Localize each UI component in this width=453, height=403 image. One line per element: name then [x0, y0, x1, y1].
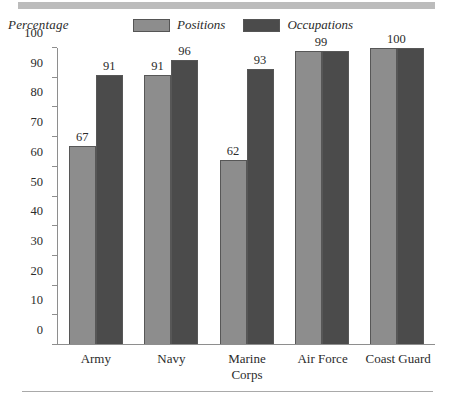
bar-group: 100 [360, 48, 435, 344]
y-axis-tick-label: 30 [31, 233, 44, 248]
bar-group: 99 [284, 48, 359, 344]
bar-value-label: 91 [151, 59, 164, 74]
y-axis-tick-label: 100 [24, 26, 43, 41]
y-axis-tick-label: 50 [31, 174, 44, 189]
y-axis-tick: 70 [52, 136, 57, 137]
x-axis-line [57, 344, 435, 345]
x-axis-category-label: Marine Corps [209, 351, 285, 383]
chart-legend: Positions Occupations [133, 17, 353, 33]
bar-positions[interactable]: 67 [69, 146, 96, 344]
bar-group: 6791 [58, 48, 133, 344]
bar-occupations[interactable] [322, 51, 349, 344]
bar-group: 9196 [133, 48, 208, 344]
legend-entry-positions: Positions [133, 17, 225, 33]
legend-swatch-occupations [243, 19, 280, 32]
top-decorative-rule [18, 2, 435, 9]
y-axis-tick: 20 [52, 285, 57, 286]
x-axis-category-label: Coast Guard [360, 351, 436, 383]
bar-groups: 67919196629399100 [58, 48, 435, 344]
legend-label-positions: Positions [177, 17, 225, 33]
legend-swatch-positions [133, 19, 170, 32]
bar-value-label: 91 [103, 59, 116, 74]
x-axis-category-label: Army [58, 351, 134, 383]
bar-value-label: 93 [254, 53, 267, 68]
x-axis-category-labels: ArmyNavyMarine CorpsAir ForceCoast Guard [58, 351, 436, 383]
bar-positions[interactable]: 62 [220, 160, 247, 344]
bar-occupations[interactable]: 91 [96, 75, 123, 344]
y-axis-tick-label: 70 [31, 115, 44, 130]
y-axis-tick-label: 80 [31, 85, 44, 100]
y-axis-tick: 10 [52, 314, 57, 315]
x-axis-category-label: Navy [134, 351, 210, 383]
y-axis-tick-label: 40 [31, 204, 44, 219]
bar-positions[interactable]: 91 [144, 75, 171, 344]
bar-occupations[interactable]: 96 [171, 60, 198, 344]
bar-occupations[interactable]: 93 [247, 69, 274, 344]
bottom-decorative-rule [22, 391, 433, 392]
y-axis-tick-label: 60 [31, 144, 44, 159]
y-axis-tick: 60 [52, 166, 57, 167]
x-axis-category-label: Air Force [285, 351, 361, 383]
y-axis-tick: 80 [52, 106, 57, 107]
y-axis-tick-label: 10 [31, 293, 44, 308]
y-axis-tick: 0 [52, 344, 57, 345]
bar-value-label: 67 [76, 130, 89, 145]
plot-area: 0102030405060708090100 67919196629399100 [57, 48, 435, 345]
bar-value-label: 96 [178, 44, 191, 59]
bar-occupations[interactable] [397, 48, 424, 344]
y-axis-tick: 30 [52, 255, 57, 256]
y-axis-tick: 50 [52, 196, 57, 197]
bar-positions[interactable]: 99 [295, 51, 322, 344]
y-axis-tick: 90 [52, 77, 57, 78]
y-axis-tick-label: 90 [31, 55, 44, 70]
y-axis-tick-label: 20 [31, 263, 44, 278]
legend-entry-occupations: Occupations [243, 17, 353, 33]
bar-group: 6293 [209, 48, 284, 344]
bar-positions[interactable]: 100 [370, 48, 397, 344]
bar-value-label: 100 [387, 32, 406, 47]
bar-value-label: 62 [227, 144, 240, 159]
y-axis-tick: 40 [52, 225, 57, 226]
y-axis-tick-label: 0 [37, 323, 43, 338]
bar-value-label: 99 [315, 35, 328, 50]
legend-label-occupations: Occupations [287, 17, 353, 33]
y-axis-tick: 100 [52, 47, 57, 48]
